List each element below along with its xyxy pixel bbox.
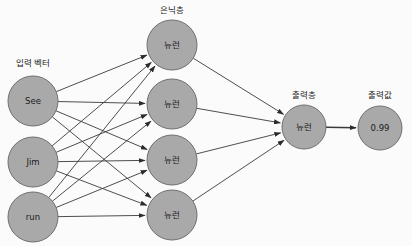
- layer-label-output: 출력층: [292, 90, 316, 100]
- edge-group-input-to-hidden: [49, 55, 155, 217]
- hidden-node: 뉴런: [147, 135, 197, 185]
- output-node: 뉴런: [282, 105, 326, 149]
- input-node: See: [8, 76, 58, 126]
- input-node: run: [8, 192, 58, 242]
- connection-input-hidden: [56, 114, 147, 152]
- hidden-node-label: 뉴런: [164, 99, 180, 109]
- diagram-canvas: SeeJimrun 뉴런뉴런뉴런뉴런 뉴런 0.99 입력 벡터 은닉층 출력층…: [0, 0, 412, 246]
- connection-input-hidden: [56, 55, 147, 92]
- layer-label-hidden: 은닉층: [160, 5, 184, 15]
- layer-label-output-value: 출력값: [368, 90, 392, 100]
- hidden-node-label: 뉴런: [164, 40, 180, 50]
- connection-input-hidden: [52, 117, 151, 198]
- hidden-node: 뉴런: [147, 79, 197, 129]
- input-node-label: Jim: [25, 157, 39, 167]
- output-node-label: 뉴런: [296, 122, 312, 132]
- hidden-node: 뉴런: [147, 20, 197, 70]
- layer-label-input: 입력 벡터: [16, 58, 51, 68]
- connection-hidden-output: [193, 58, 283, 114]
- connection-input-hidden: [49, 66, 155, 198]
- output-value-node: 0.99: [358, 106, 402, 150]
- connection-hidden-output: [197, 108, 281, 123]
- node-group-output-layer: 뉴런: [282, 105, 326, 149]
- connection-input-hidden: [56, 111, 147, 150]
- node-group-output-value: 0.99: [358, 106, 402, 150]
- hidden-node-label: 뉴런: [164, 155, 180, 165]
- edge-group-hidden-to-output: [193, 58, 284, 201]
- input-node-label: run: [26, 212, 40, 222]
- input-node: Jim: [8, 137, 58, 187]
- input-node-label: See: [25, 96, 41, 106]
- hidden-node: 뉴런: [147, 190, 197, 240]
- node-group-hidden-layer: 뉴런뉴런뉴런뉴런: [147, 20, 197, 240]
- neural-network-diagram: SeeJimrun 뉴런뉴런뉴런뉴런 뉴런 0.99 입력 벡터 은닉층 출력층…: [0, 0, 412, 246]
- output-value-node-label: 0.99: [371, 123, 390, 133]
- connection-hidden-output: [193, 140, 284, 201]
- hidden-node-label: 뉴런: [164, 210, 180, 220]
- connection-input-hidden: [58, 215, 145, 216]
- node-group-input-layer: SeeJimrun: [8, 76, 58, 242]
- connection-input-hidden: [58, 102, 145, 104]
